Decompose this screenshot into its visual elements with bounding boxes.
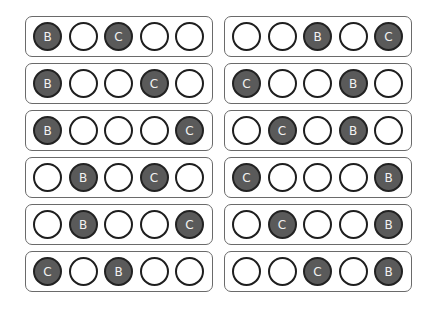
filled-circle-b: B [374, 257, 403, 286]
arrangement-row: CB [224, 63, 412, 104]
empty-circle [140, 116, 169, 145]
empty-circle [69, 22, 98, 51]
empty-circle [69, 116, 98, 145]
filled-circle-c: C [303, 257, 332, 286]
arrangement-row: BC [25, 204, 213, 245]
filled-circle-b: B [69, 210, 98, 239]
empty-circle [268, 257, 297, 286]
empty-circle [303, 69, 332, 98]
empty-circle [175, 22, 204, 51]
empty-circle [303, 116, 332, 145]
filled-circle-b: B [339, 116, 368, 145]
empty-circle [268, 69, 297, 98]
arrangement-row: CB [224, 110, 412, 151]
filled-circle-c: C [104, 22, 133, 51]
arrangement-row: CB [224, 251, 412, 292]
empty-circle [140, 22, 169, 51]
arrangement-grid: BCBCBCCBBCCBBCCBBCCBCBCB [25, 16, 412, 292]
empty-circle [339, 163, 368, 192]
empty-circle [268, 163, 297, 192]
filled-circle-b: B [374, 210, 403, 239]
empty-circle [232, 22, 261, 51]
filled-circle-c: C [232, 163, 261, 192]
filled-circle-b: B [33, 69, 62, 98]
arrangement-row: BC [25, 157, 213, 198]
filled-circle-c: C [175, 116, 204, 145]
arrangement-row: CB [25, 251, 213, 292]
arrangement-row: BC [25, 110, 213, 151]
filled-circle-c: C [232, 69, 261, 98]
empty-circle [374, 69, 403, 98]
filled-circle-b: B [33, 116, 62, 145]
arrangement-row: CB [224, 204, 412, 245]
filled-circle-c: C [140, 163, 169, 192]
filled-circle-b: B [303, 22, 332, 51]
empty-circle [104, 210, 133, 239]
empty-circle [140, 257, 169, 286]
empty-circle [69, 257, 98, 286]
filled-circle-b: B [69, 163, 98, 192]
empty-circle [303, 210, 332, 239]
empty-circle [339, 257, 368, 286]
arrangement-row: BC [224, 16, 412, 57]
empty-circle [232, 210, 261, 239]
arrangement-row: BC [25, 16, 213, 57]
empty-circle [104, 116, 133, 145]
filled-circle-c: C [374, 22, 403, 51]
filled-circle-c: C [268, 210, 297, 239]
empty-circle [339, 22, 368, 51]
empty-circle [175, 257, 204, 286]
empty-circle [104, 163, 133, 192]
empty-circle [339, 210, 368, 239]
filled-circle-c: C [140, 69, 169, 98]
empty-circle [232, 116, 261, 145]
empty-circle [33, 210, 62, 239]
filled-circle-b: B [104, 257, 133, 286]
filled-circle-b: B [339, 69, 368, 98]
arrangement-row: BC [25, 63, 213, 104]
empty-circle [140, 210, 169, 239]
empty-circle [232, 257, 261, 286]
filled-circle-b: B [33, 22, 62, 51]
empty-circle [33, 163, 62, 192]
empty-circle [175, 163, 204, 192]
filled-circle-c: C [175, 210, 204, 239]
empty-circle [69, 69, 98, 98]
empty-circle [303, 163, 332, 192]
empty-circle [175, 69, 204, 98]
empty-circle [268, 22, 297, 51]
filled-circle-c: C [268, 116, 297, 145]
empty-circle [374, 116, 403, 145]
arrangement-row: CB [224, 157, 412, 198]
filled-circle-c: C [33, 257, 62, 286]
empty-circle [104, 69, 133, 98]
filled-circle-b: B [374, 163, 403, 192]
